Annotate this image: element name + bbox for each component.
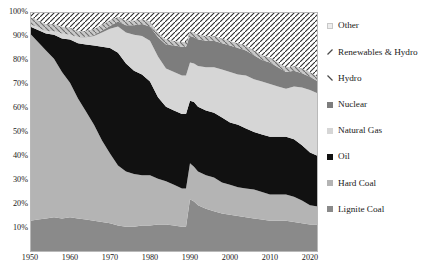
stacked-area-chart — [30, 12, 318, 252]
legend-item-hard-coal[interactable]: Hard Coal — [327, 177, 376, 189]
legend-item-oil[interactable]: Oil — [327, 151, 350, 163]
legend-item-lignite-coal[interactable]: Lignite Coal — [327, 203, 384, 215]
plot-area — [30, 12, 318, 252]
x-axis: 19501960197019801990200020102020 — [30, 254, 318, 270]
legend-item-natural-gas[interactable]: Natural Gas — [327, 125, 382, 137]
y-tick-label: 90% — [1, 32, 28, 40]
legend-label: Lignite Coal — [338, 205, 384, 214]
legend-item-hydro[interactable]: Hydro — [327, 72, 361, 84]
y-tick-label: 20% — [1, 200, 28, 208]
backslash-hatch-icon — [327, 75, 333, 81]
legend-label: Hard Coal — [338, 179, 376, 188]
slash-hatch-icon — [327, 49, 333, 55]
y-tick-label: 10% — [1, 224, 28, 232]
legend-swatch-icon — [327, 180, 333, 186]
legend-swatch-icon — [327, 102, 333, 108]
legend-swatch-icon — [327, 23, 333, 29]
y-tick-label: 50% — [1, 128, 28, 136]
y-tick-label: 60% — [1, 104, 28, 112]
y-tick-label: 70% — [1, 80, 28, 88]
y-tick-label: 30% — [1, 176, 28, 184]
x-tick-label: 1970 — [93, 254, 127, 262]
x-tick-label: 2010 — [253, 254, 287, 262]
x-tick-label: 1980 — [133, 254, 167, 262]
y-tick-label: 80% — [1, 56, 28, 64]
x-tick-label: 1950 — [13, 254, 47, 262]
legend-label: Natural Gas — [338, 126, 382, 135]
legend-swatch-icon — [327, 206, 333, 212]
legend-label: Other — [338, 21, 359, 30]
legend-label: Oil — [338, 152, 350, 161]
chart-container: 10%20%30%40%50%60%70%80%90%100% 19501960… — [0, 0, 439, 274]
chart-legend: OtherRenewables & HydroHydroNuclearNatur… — [327, 20, 439, 230]
legend-item-renewables-hydro[interactable]: Renewables & Hydro — [327, 46, 418, 58]
y-tick-label: 40% — [1, 152, 28, 160]
x-tick-label: 1990 — [173, 254, 207, 262]
legend-item-nuclear[interactable]: Nuclear — [327, 99, 367, 111]
y-axis: 10%20%30%40%50%60%70%80%90%100% — [0, 0, 28, 274]
y-tick-label: 100% — [1, 8, 28, 16]
legend-item-other[interactable]: Other — [327, 20, 359, 32]
legend-label: Renewables & Hydro — [338, 48, 418, 57]
x-tick-label: 1960 — [53, 254, 87, 262]
x-tick-label: 2000 — [213, 254, 247, 262]
legend-label: Nuclear — [338, 100, 367, 109]
legend-swatch-icon — [327, 154, 333, 160]
legend-swatch-icon — [327, 128, 333, 134]
legend-label: Hydro — [338, 74, 361, 83]
x-tick-label: 2020 — [293, 254, 327, 262]
